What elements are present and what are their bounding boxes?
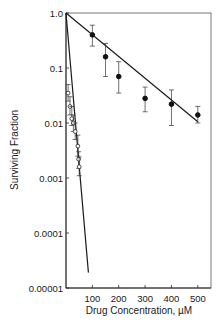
- plot-border: [66, 13, 211, 288]
- open-data-point: [73, 130, 77, 134]
- plot-frame: [66, 13, 211, 288]
- y-tick-label: 0.001: [39, 173, 63, 184]
- fit-line: [66, 13, 198, 122]
- filled-data-point: [116, 74, 121, 79]
- filled-data-point: [90, 33, 95, 38]
- fit-lines: [66, 13, 198, 273]
- open-data-point: [76, 144, 80, 148]
- filled-data-point: [103, 54, 108, 59]
- x-tick-label: 300: [137, 293, 153, 304]
- x-tick-label: 200: [111, 293, 127, 304]
- open-data-point: [66, 91, 70, 95]
- open-data-point: [77, 165, 81, 169]
- x-axis-title: Drug Concentration, µM: [86, 305, 192, 316]
- y-tick-label: 1.0: [50, 8, 63, 19]
- filled-data-point: [169, 102, 174, 107]
- y-tick-label: 0.0001: [34, 228, 63, 239]
- x-tick-label: 400: [164, 293, 180, 304]
- y-axis-ticks: 1.00.10.010.0010.00010.00001: [29, 8, 69, 294]
- y-tick-label: 0.00001: [29, 283, 63, 294]
- y-axis-title: Surviving Fraction: [9, 110, 20, 190]
- y-tick-label: 0.1: [50, 63, 63, 74]
- data-points: [66, 25, 201, 176]
- x-tick-label: 500: [190, 293, 206, 304]
- fit-line: [66, 13, 88, 273]
- filled-data-point: [143, 96, 148, 101]
- filled-data-point: [196, 113, 201, 118]
- y-tick-label: 0.01: [45, 118, 64, 129]
- survival-chart: 1.00.10.010.0010.00010.00001 10020030040…: [0, 0, 224, 331]
- open-data-point: [77, 157, 81, 161]
- x-tick-label: 100: [84, 293, 100, 304]
